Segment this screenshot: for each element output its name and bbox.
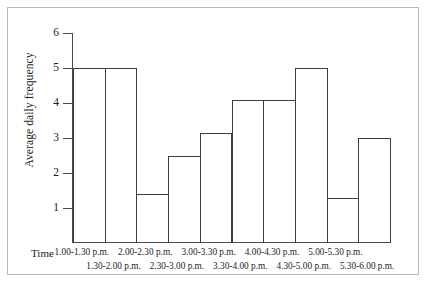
x-axis-label-7: 4.00-4.30 p.m. [245, 247, 300, 257]
plot-area: 654321 [73, 33, 390, 243]
bar-4 [168, 156, 201, 244]
y-tick-label-1: 1 [43, 202, 59, 214]
bar-8 [295, 68, 328, 243]
chart-figure: Average daily frequency 654321 Time 1.00… [0, 0, 430, 286]
bar-9 [327, 198, 360, 244]
bar-7 [263, 100, 296, 244]
y-tick-6 [63, 33, 73, 34]
y-axis-title: Average daily frequency [23, 35, 35, 185]
x-axis-label-3: 2.00-2.30 p.m. [118, 247, 173, 257]
bar-5 [200, 133, 233, 243]
x-axis-label-1: 1.00-1.30 p.m. [55, 247, 110, 257]
y-tick-label-4: 4 [43, 97, 59, 109]
y-tick-label-3: 3 [43, 132, 59, 144]
x-axis-label-4: 2.30-3.00 p.m. [150, 261, 205, 271]
x-axis-label-5: 3.00-3.30 p.m. [181, 247, 236, 257]
y-tick-label-2: 2 [43, 167, 59, 179]
bar-series [73, 33, 390, 243]
x-axis-label-9: 5.00-5.30 p.m. [308, 247, 363, 257]
bar-2 [105, 68, 138, 243]
x-axis-label-8: 4.30-5.00 p.m. [277, 261, 332, 271]
x-axis-label-6: 3.30-4.00 p.m. [213, 261, 268, 271]
y-tick-2 [63, 173, 73, 174]
x-axis-title: Time [31, 247, 54, 259]
x-axis-label-10: 5.30-6.00 p.m. [340, 261, 395, 271]
y-tick-label-6: 6 [43, 27, 59, 39]
y-tick-label-5: 5 [43, 62, 59, 74]
bar-6 [232, 100, 265, 244]
bar-10 [358, 138, 391, 243]
y-tick-5 [63, 68, 73, 69]
x-axis-label-2: 1.30-2.00 p.m. [86, 261, 141, 271]
y-tick-1 [63, 208, 73, 209]
bar-3 [136, 194, 169, 243]
y-tick-4 [63, 103, 73, 104]
bar-1 [73, 68, 106, 243]
y-tick-3 [63, 138, 73, 139]
